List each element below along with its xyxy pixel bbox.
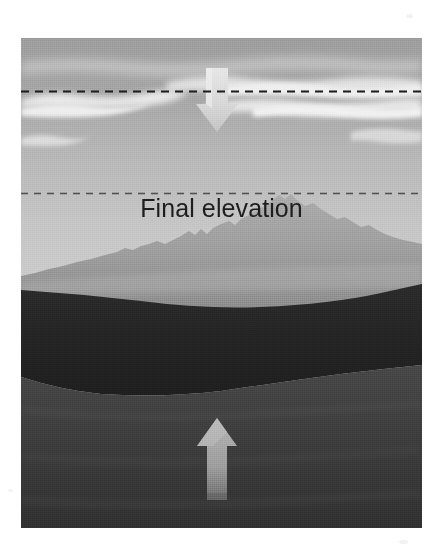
paper-speck (8, 489, 13, 492)
paper-speck (406, 14, 413, 18)
paper-speck (399, 540, 408, 544)
elevation-illustration: Final elevation (21, 38, 422, 528)
scene-svg (21, 38, 422, 528)
figure-root: Final elevation (0, 0, 443, 556)
